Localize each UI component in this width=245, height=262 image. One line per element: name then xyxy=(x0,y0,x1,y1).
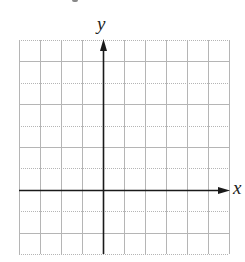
y-axis-label: y xyxy=(97,14,105,33)
coordinate-grid xyxy=(0,0,245,262)
x-axis-label: x xyxy=(233,178,241,197)
x-axis-arrowhead-icon xyxy=(218,187,230,194)
